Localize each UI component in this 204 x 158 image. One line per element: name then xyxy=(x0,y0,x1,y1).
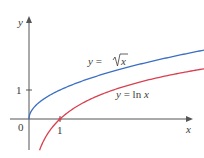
x-axis xyxy=(10,116,193,122)
x-axis-arrow-icon xyxy=(186,116,193,122)
chart: y x 0 1 1 y = x y = ln x xyxy=(0,0,204,158)
sqrt-curve xyxy=(29,50,204,119)
svg-text:y =: y = xyxy=(87,55,102,67)
svg-text:y = ln x: y = ln x xyxy=(115,88,149,100)
ln-root-point xyxy=(58,117,61,120)
y-axis-label: y xyxy=(17,16,23,28)
y-axis-arrow-icon xyxy=(26,16,32,23)
y-tick-label-1: 1 xyxy=(16,84,22,96)
sqrt-annotation-prefix: y = xyxy=(87,55,102,67)
sqrt-annotation: y = x xyxy=(87,54,128,67)
y-axis xyxy=(26,16,32,150)
x-tick-label-1: 1 xyxy=(57,124,63,136)
x-axis-label: x xyxy=(185,123,191,135)
ln-annotation-var: x xyxy=(143,88,149,100)
ln-annotation-mid: = ln xyxy=(121,88,144,100)
sqrt-annotation-var: x xyxy=(120,55,126,67)
origin-label: 0 xyxy=(18,121,24,133)
ln-curve xyxy=(40,69,204,151)
ln-annotation: y = ln x xyxy=(115,88,149,100)
